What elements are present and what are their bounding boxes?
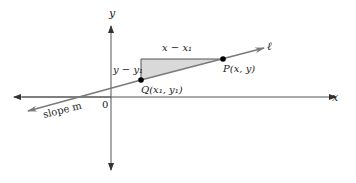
origin-label: 0	[102, 99, 108, 110]
line-l-label: ℓ	[267, 40, 272, 53]
point-q	[138, 77, 144, 83]
y-axis-label: y	[108, 7, 116, 20]
point-p-label: P(x, y)	[222, 63, 255, 74]
run-label: x − x₁	[162, 42, 192, 53]
slope-label: slope m	[42, 100, 83, 120]
rise-label: y − y₁	[112, 64, 143, 75]
point-slope-diagram: y x 0 ℓ slope m P(x, y) Q(x₁, y₁) x − x₁…	[0, 0, 356, 183]
point-q-label: Q(x₁, y₁)	[141, 84, 183, 95]
x-axis-label: x	[332, 91, 339, 104]
line-l-lower	[28, 80, 141, 111]
point-p	[220, 56, 226, 62]
